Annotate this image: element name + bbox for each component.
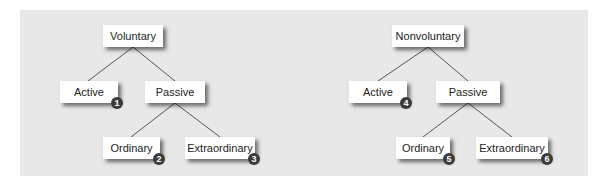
node-label: Passive <box>156 86 195 98</box>
node-label: Nonvoluntary <box>396 30 461 42</box>
node-passive-voluntary: Passive <box>145 81 205 103</box>
node-label: Passive <box>449 86 488 98</box>
node-active-voluntary: Active 1 <box>60 81 118 103</box>
node-ordinary-voluntary: Ordinary 2 <box>103 137 160 159</box>
number-badge: 2 <box>153 153 165 165</box>
number-badge: 6 <box>541 153 553 165</box>
node-label: Ordinary <box>110 142 152 154</box>
node-label: Extraordinary <box>479 142 544 154</box>
node-extraordinary-nonvoluntary: Extraordinary 6 <box>476 137 548 159</box>
node-active-nonvoluntary: Active 4 <box>349 81 407 103</box>
node-label: Active <box>74 86 104 98</box>
node-nonvoluntary: Nonvoluntary <box>392 25 464 47</box>
node-passive-nonvoluntary: Passive <box>436 81 500 103</box>
number-badge: 5 <box>443 153 455 165</box>
node-extraordinary-voluntary: Extraordinary 3 <box>185 137 255 159</box>
number-badge: 4 <box>400 97 412 109</box>
number-badge: 1 <box>111 97 123 109</box>
node-label: Extraordinary <box>187 142 252 154</box>
node-label: Voluntary <box>110 30 156 42</box>
node-label: Ordinary <box>402 142 444 154</box>
node-ordinary-nonvoluntary: Ordinary 5 <box>396 137 450 159</box>
node-voluntary: Voluntary <box>103 25 163 47</box>
node-label: Active <box>363 86 393 98</box>
number-badge: 3 <box>248 153 260 165</box>
